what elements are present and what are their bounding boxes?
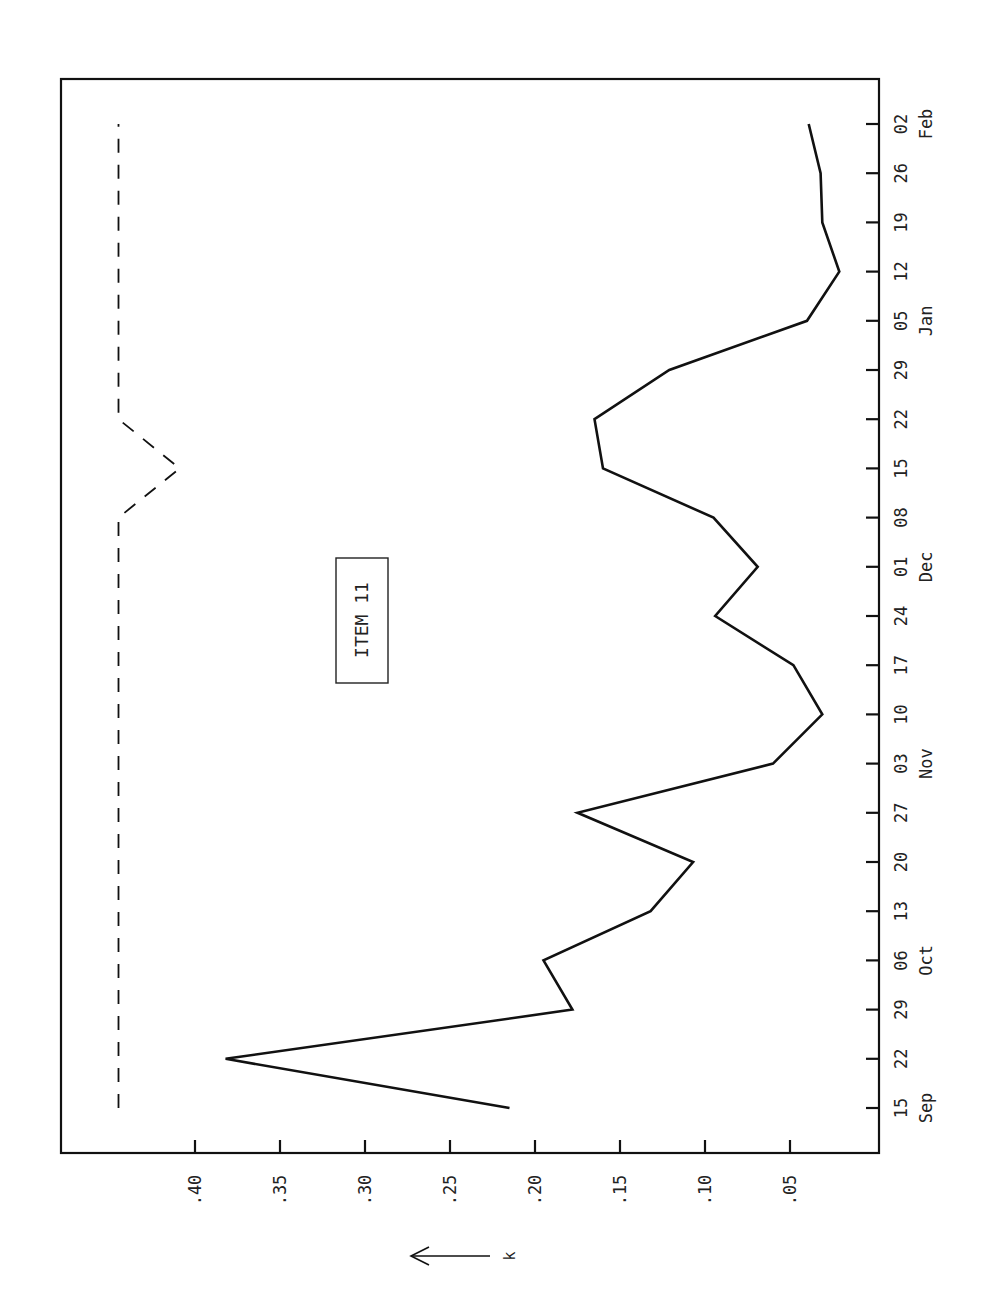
y-axis-label: k xyxy=(501,1251,519,1260)
date-tick-label: 29 xyxy=(891,999,911,1019)
value-tick-label: .05 xyxy=(780,1175,800,1206)
value-tick-label: .25 xyxy=(440,1175,460,1206)
date-tick-label: 02 xyxy=(891,114,911,134)
date-tick-label: 22 xyxy=(891,1049,911,1069)
date-tick-label: 29 xyxy=(891,360,911,380)
month-label: Oct xyxy=(916,945,936,976)
value-tick-label: .15 xyxy=(610,1175,630,1206)
date-axis-labels: 1522290613202703101724010815222905121926… xyxy=(891,114,911,1118)
value-tick-label: .10 xyxy=(695,1175,715,1206)
dashed-limit-line xyxy=(119,124,180,1108)
left-arrow-icon xyxy=(411,1247,490,1265)
month-label: Nov xyxy=(916,748,936,779)
date-tick-label: 13 xyxy=(891,901,911,921)
date-tick-label: 24 xyxy=(891,606,911,626)
chart-canvas: .40.35.30.25.20.15.10.05 152229061320270… xyxy=(0,0,995,1310)
month-label: Sep xyxy=(916,1093,936,1124)
k-data-line xyxy=(226,124,840,1108)
month-labels: SepOctNovDecJanFeb xyxy=(916,109,936,1124)
value-tick-label: .35 xyxy=(270,1175,290,1206)
month-label: Jan xyxy=(916,305,936,336)
date-tick-label: 27 xyxy=(891,803,911,823)
date-tick-label: 08 xyxy=(891,507,911,527)
value-tick-label: .30 xyxy=(355,1175,375,1206)
date-tick-label: 17 xyxy=(891,655,911,675)
date-tick-label: 26 xyxy=(891,163,911,183)
date-tick-label: 15 xyxy=(891,1098,911,1118)
value-tick-label: .40 xyxy=(185,1175,205,1206)
value-axis-ticks xyxy=(195,1140,790,1153)
value-tick-label: .20 xyxy=(525,1175,545,1206)
month-label: Dec xyxy=(916,551,936,582)
date-tick-label: 10 xyxy=(891,704,911,724)
date-tick-label: 12 xyxy=(891,261,911,281)
date-tick-label: 22 xyxy=(891,409,911,429)
date-tick-label: 19 xyxy=(891,212,911,232)
date-tick-label: 06 xyxy=(891,950,911,970)
date-tick-label: 03 xyxy=(891,753,911,773)
annotation-item-label: ITEM 11 xyxy=(336,558,388,683)
date-tick-label: 15 xyxy=(891,458,911,478)
date-tick-label: 20 xyxy=(891,852,911,872)
plot-frame xyxy=(61,79,879,1153)
annotation-text: ITEM 11 xyxy=(351,582,372,658)
month-label: Feb xyxy=(916,109,936,140)
date-axis-ticks xyxy=(866,124,879,1108)
y-axis-title: k xyxy=(411,1247,519,1265)
value-axis-labels: .40.35.30.25.20.15.10.05 xyxy=(185,1175,800,1206)
date-tick-label: 05 xyxy=(891,311,911,331)
date-tick-label: 01 xyxy=(891,557,911,577)
